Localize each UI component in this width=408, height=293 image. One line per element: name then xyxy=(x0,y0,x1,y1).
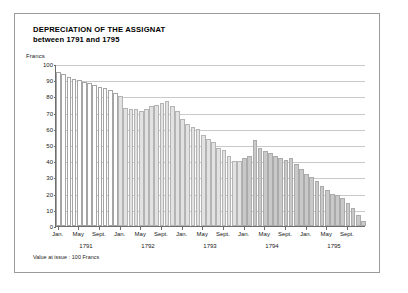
bar xyxy=(284,160,289,226)
bar xyxy=(103,88,108,226)
bar xyxy=(242,158,247,226)
bar xyxy=(268,153,273,226)
bar-series xyxy=(56,65,365,226)
bar xyxy=(237,161,242,226)
y-tick-label: 70 xyxy=(46,111,53,117)
x-tick-label: Jan. xyxy=(114,231,125,238)
x-tick-mark xyxy=(58,227,59,230)
bar xyxy=(211,142,216,226)
bar xyxy=(247,156,252,226)
chart-subtitle: between 1791 and 1795 xyxy=(33,35,165,45)
x-axis-year-label: 1791 xyxy=(79,243,92,250)
x-tick-label: Jan. xyxy=(52,231,63,238)
y-tick-label: 40 xyxy=(46,159,53,165)
x-tick-label: May xyxy=(259,231,270,238)
y-tick-label: 20 xyxy=(46,192,53,198)
bar xyxy=(227,156,232,226)
bar xyxy=(320,186,325,227)
bar xyxy=(154,105,159,227)
x-tick-label: May xyxy=(321,231,332,238)
x-tick-mark xyxy=(182,227,183,230)
x-axis-year-label: 1794 xyxy=(265,243,278,250)
bar xyxy=(253,140,258,226)
x-tick-mark xyxy=(326,227,327,230)
x-tick-label: Jan. xyxy=(300,231,311,238)
x-axis-year-label: 1792 xyxy=(141,243,154,250)
x-axis-year-label: 1795 xyxy=(327,243,340,250)
y-tick-label: 90 xyxy=(46,78,53,84)
bar xyxy=(56,72,61,226)
y-tick-label: 0 xyxy=(50,224,53,230)
bar xyxy=(289,158,294,226)
x-tick-label: May xyxy=(73,231,84,238)
bar xyxy=(180,119,185,226)
y-tick-label: 50 xyxy=(46,143,53,149)
bar xyxy=(77,80,82,226)
plot-area: 0102030405060708090100 xyxy=(55,65,365,227)
bar xyxy=(108,90,113,226)
x-tick-mark xyxy=(285,227,286,230)
x-axis-year-label: 1793 xyxy=(203,243,216,250)
plot-frame: 0102030405060708090100 xyxy=(55,65,365,227)
bar xyxy=(222,150,227,226)
y-tick-label: 80 xyxy=(46,94,53,100)
chart-title-block: DEPRECIATION OF THE ASSIGNAT between 179… xyxy=(33,25,165,45)
bar xyxy=(361,221,366,226)
x-tick-mark xyxy=(264,227,265,230)
bar xyxy=(216,148,221,226)
x-tick-mark xyxy=(347,227,348,230)
bar xyxy=(196,129,201,226)
chart-figure: DEPRECIATION OF THE ASSIGNAT between 179… xyxy=(14,13,380,273)
x-tick-mark xyxy=(140,227,141,230)
bar xyxy=(87,83,92,226)
x-tick-mark xyxy=(78,227,79,230)
y-tick-label: 10 xyxy=(46,208,53,214)
y-tick-label: 100 xyxy=(43,62,53,68)
bar xyxy=(72,79,77,226)
bar xyxy=(134,109,139,226)
bar xyxy=(309,177,314,226)
bar xyxy=(201,135,206,226)
bar xyxy=(356,215,361,226)
x-tick-label: Sept. xyxy=(340,231,354,238)
x-tick-label: May xyxy=(197,231,208,238)
bar xyxy=(206,139,211,226)
bar xyxy=(335,195,340,226)
bar xyxy=(82,82,87,226)
bar xyxy=(263,151,268,226)
bar xyxy=(123,108,128,226)
bar xyxy=(129,109,134,226)
bar xyxy=(113,93,118,226)
bar xyxy=(118,96,123,226)
x-tick-label: May xyxy=(135,231,146,238)
bar xyxy=(294,164,299,226)
bar xyxy=(191,127,196,226)
bar xyxy=(325,190,330,226)
y-axis-label: Francs xyxy=(26,53,45,59)
bar xyxy=(346,203,351,226)
bar xyxy=(304,174,309,226)
bar xyxy=(185,124,190,226)
y-tick-label: 30 xyxy=(46,175,53,181)
bar xyxy=(160,103,165,226)
bar xyxy=(258,148,263,226)
bar xyxy=(149,106,154,226)
chart-footnote: Value at issue : 100 Francs xyxy=(33,254,99,260)
x-tick-mark xyxy=(244,227,245,230)
bar xyxy=(92,85,97,226)
x-tick-label: Sept. xyxy=(278,231,292,238)
x-axis: Jan.MaySept.Jan.MaySept.Jan.MaySept.Jan.… xyxy=(55,227,365,267)
x-tick-mark xyxy=(223,227,224,230)
bar xyxy=(139,111,144,226)
x-tick-label: Sept. xyxy=(154,231,168,238)
page-title: DEPRECIATION OF THE ASSIGNAT xyxy=(33,25,165,35)
x-tick-mark xyxy=(99,227,100,230)
bar xyxy=(165,101,170,226)
x-tick-label: Sept. xyxy=(92,231,106,238)
bar xyxy=(278,158,283,226)
x-tick-mark xyxy=(120,227,121,230)
bar xyxy=(351,208,356,226)
bar xyxy=(61,74,66,226)
bar xyxy=(340,198,345,226)
bar xyxy=(98,87,103,226)
